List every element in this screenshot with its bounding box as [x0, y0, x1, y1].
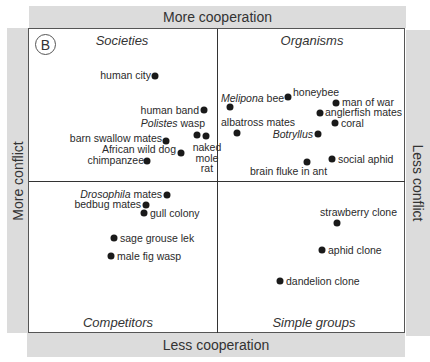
point-label: Botryllus — [273, 129, 313, 140]
data-point-naked-mole-rat — [203, 133, 210, 140]
data-point-human-band — [201, 107, 208, 114]
data-point-african-wild-dog — [178, 150, 185, 157]
data-point-drosophila-mates — [164, 192, 171, 199]
data-point-botryllus — [315, 131, 322, 138]
point-label: honeybee — [293, 87, 339, 98]
point-label-rest: bee — [264, 92, 284, 104]
axis-label-more-conflict: More conflict — [10, 141, 26, 220]
point-label-italic: Melipona — [221, 92, 264, 104]
point-label: human band — [141, 105, 199, 116]
data-point-dandelion-clone — [277, 278, 284, 285]
axis-band-right: Less conflict — [406, 30, 430, 336]
point-label: sage grouse lek — [120, 233, 194, 244]
data-point-chimpanzee — [144, 158, 151, 165]
data-point-bedbug-mates — [143, 202, 150, 209]
point-label-italic: Botryllus — [273, 128, 313, 140]
data-point-human-city — [152, 73, 159, 80]
axis-label-less-conflict: Less conflict — [410, 144, 426, 221]
point-label: bedbug mates — [74, 199, 141, 210]
data-point-male-fig-wasp — [108, 253, 115, 260]
point-label: gull colony — [150, 208, 200, 219]
point-label: brain fluke in ant — [250, 166, 327, 177]
point-label: aphid clone — [328, 245, 382, 256]
data-point-social-aphid — [329, 156, 336, 163]
panel-label-badge: B — [35, 34, 56, 55]
data-point-coral — [332, 120, 339, 127]
data-point-honeybee — [285, 94, 292, 101]
point-label: human city — [100, 70, 151, 81]
quadrant-title-societies: Societies — [96, 33, 149, 48]
horizontal-divider — [29, 181, 405, 182]
point-label: male fig wasp — [117, 251, 181, 262]
point-label: Melipona bee — [221, 93, 284, 104]
point-label: coral — [341, 118, 364, 129]
point-label: social aphid — [338, 154, 393, 165]
axis-band-bottom: Less cooperation — [27, 333, 405, 357]
data-point-anglerfish-mates — [317, 110, 324, 117]
point-label: naked mole rat — [190, 142, 224, 174]
data-point-sage-grouse-lek — [111, 235, 118, 242]
quadrant-title-organisms: Organisms — [281, 33, 344, 48]
axis-band-left: More conflict — [7, 28, 28, 333]
axis-label-less-cooperation: Less cooperation — [27, 337, 405, 353]
data-point-strawberry-clone — [334, 220, 341, 227]
quadrant-title-simple-groups: Simple groups — [272, 315, 355, 330]
point-label: Polistes wasp — [141, 118, 205, 129]
data-point-melipona-bee — [227, 104, 234, 111]
point-label-rest: wasp — [178, 117, 205, 129]
data-point-gull-colony — [141, 210, 148, 217]
point-label-italic: Polistes — [141, 117, 178, 129]
point-label: dandelion clone — [286, 276, 360, 287]
data-point-aphid-clone — [319, 247, 326, 254]
point-label: albatross mates — [221, 117, 295, 128]
point-label: strawberry clone — [320, 207, 397, 218]
axis-label-more-cooperation: More cooperation — [29, 9, 406, 25]
point-label: chimpanzee — [87, 155, 144, 166]
quadrant-title-competitors: Competitors — [83, 315, 153, 330]
axis-band-top: More cooperation — [29, 6, 406, 28]
data-point-polistes-wasp — [194, 132, 201, 139]
data-point-albatross-mates — [234, 130, 241, 137]
